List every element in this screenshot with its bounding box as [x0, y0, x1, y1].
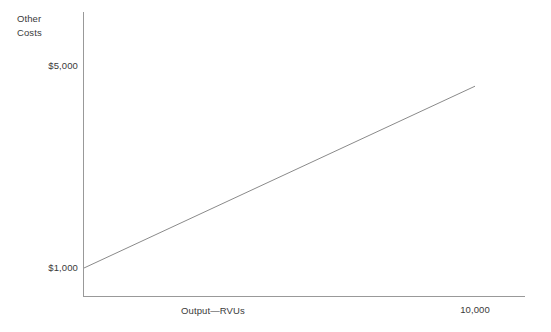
chart-figure: Other Costs $5,000 $1,000 Output—RVUs 10… — [0, 0, 551, 332]
plot-area — [0, 0, 551, 332]
other-costs-line — [84, 86, 475, 268]
